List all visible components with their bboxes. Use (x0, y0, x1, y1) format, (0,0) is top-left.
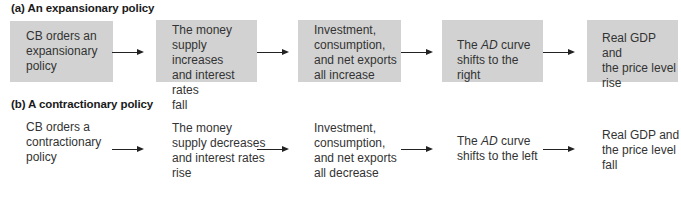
node-line: Real GDP and (602, 31, 678, 61)
arrow-b-3 (401, 149, 431, 150)
node-line: shifts to the right (457, 53, 543, 83)
node-line: Real GDP and (602, 128, 681, 143)
node-line: supply increases (172, 38, 257, 68)
node-line: the price level (602, 61, 678, 76)
node-line: The AD curve (457, 134, 553, 149)
section-title-expansionary: (a) An expansionary policy (11, 2, 154, 14)
node-line: the price level (602, 143, 681, 158)
arrow-b-4 (543, 149, 573, 150)
arrow-a-2 (257, 52, 287, 53)
node-line: and interest rates (172, 68, 257, 98)
arrow-a-3 (401, 52, 431, 53)
node-line: consumption, (314, 38, 401, 53)
node-line: contractionary (26, 135, 116, 150)
node-line: supply decreases (172, 136, 268, 151)
node-b-money-supply: The money supply decreases and interest … (172, 121, 268, 181)
node-b-cb-orders: CB orders a contractionary policy (26, 120, 116, 165)
node-a-money-supply: The money supply increases and interest … (156, 20, 257, 82)
node-line: The money (172, 121, 268, 136)
node-line: fall (172, 98, 257, 113)
node-line: shifts to the left (457, 149, 553, 164)
section-title-contractionary: (b) A contractionary policy (11, 98, 153, 110)
node-line: all increase (314, 68, 401, 83)
node-line: and net exports (314, 151, 410, 166)
node-line: CB orders an (26, 29, 113, 44)
node-b-investment: Investment, consumption, and net exports… (314, 121, 410, 181)
arrow-a-1 (112, 52, 142, 53)
node-a-ad-curve: The AD curve shifts to the right (442, 20, 543, 82)
node-a-investment: Investment, consumption, and net exports… (298, 20, 401, 82)
node-b-ad-curve: The AD curve shifts to the left (457, 134, 553, 164)
arrow-b-2 (257, 149, 287, 150)
node-line: policy (26, 150, 116, 165)
node-line: all decrease (314, 166, 410, 181)
node-line: consumption, (314, 136, 410, 151)
arrow-a-4 (543, 52, 573, 53)
node-a-real-gdp: Real GDP and the price level rise (587, 20, 678, 82)
node-line: The money (172, 23, 257, 38)
node-line: CB orders a (26, 120, 116, 135)
node-line: policy (26, 59, 113, 74)
node-a-cb-orders: CB orders an expansionary policy (10, 21, 113, 82)
node-line: Investment, (314, 23, 401, 38)
node-line: rise (602, 76, 678, 91)
node-line: and interest rates (172, 151, 268, 166)
node-line: Investment, (314, 121, 410, 136)
node-line: and net exports (314, 53, 401, 68)
arrow-b-1 (112, 149, 142, 150)
node-line: fall (602, 158, 681, 173)
node-line: The AD curve (457, 38, 543, 53)
node-line: expansionary (26, 44, 113, 59)
node-b-real-gdp: Real GDP and the price level fall (602, 128, 681, 173)
node-line: rise (172, 166, 268, 181)
